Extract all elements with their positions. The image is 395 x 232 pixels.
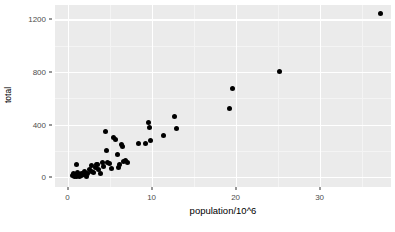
data-point bbox=[98, 171, 103, 176]
data-point bbox=[227, 106, 232, 111]
x-axis-tick-label: 20 bbox=[231, 193, 240, 202]
data-point bbox=[230, 86, 235, 91]
gridline-major-horizontal bbox=[55, 177, 391, 178]
x-axis-tick-mark bbox=[67, 187, 68, 190]
data-point bbox=[103, 129, 108, 134]
gridline-minor-horizontal bbox=[55, 46, 391, 47]
x-axis-tick-labels: 0102030 bbox=[55, 187, 391, 205]
gridline-major-vertical bbox=[236, 5, 237, 187]
y-axis-tick-label: 1200 bbox=[28, 15, 46, 24]
data-point bbox=[148, 138, 153, 143]
gridline-major-horizontal bbox=[55, 19, 391, 20]
gridline-major-vertical bbox=[320, 5, 321, 187]
data-point bbox=[172, 114, 177, 119]
y-axis-title-text: total bbox=[3, 87, 13, 103]
data-point bbox=[74, 162, 79, 167]
data-point bbox=[113, 137, 118, 142]
x-axis-title: population/10^6 bbox=[55, 205, 391, 216]
data-point bbox=[147, 125, 152, 130]
data-point bbox=[120, 144, 125, 149]
data-point bbox=[101, 164, 106, 169]
gridline-major-horizontal bbox=[55, 125, 391, 126]
gridline-minor-vertical bbox=[278, 5, 279, 187]
x-axis-tick-label: 10 bbox=[147, 193, 156, 202]
x-axis-tick-label: 30 bbox=[315, 193, 324, 202]
plot-panel bbox=[55, 5, 391, 187]
data-point bbox=[125, 160, 130, 165]
gridline-major-horizontal bbox=[55, 72, 391, 73]
y-axis-tick-label: 0 bbox=[42, 173, 46, 182]
gridline-major-vertical bbox=[152, 5, 153, 187]
gridline-minor-vertical bbox=[362, 5, 363, 187]
data-point bbox=[174, 126, 179, 131]
y-axis-tick-labels: 04008001200 bbox=[16, 0, 52, 190]
data-point bbox=[277, 69, 282, 74]
gridline-major-vertical bbox=[68, 5, 69, 187]
data-point bbox=[136, 141, 141, 146]
data-point bbox=[115, 152, 120, 157]
data-point bbox=[104, 148, 109, 153]
gridline-minor-vertical bbox=[110, 5, 111, 187]
data-point bbox=[161, 133, 166, 138]
y-axis-tick-mark bbox=[49, 19, 52, 20]
gridline-minor-horizontal bbox=[55, 98, 391, 99]
scatter-plot: total 04008001200 0102030 population/10^… bbox=[0, 0, 395, 232]
x-axis-tick-mark bbox=[151, 187, 152, 190]
data-point bbox=[107, 161, 112, 166]
y-axis-title: total bbox=[0, 0, 16, 190]
y-axis-tick-mark bbox=[49, 72, 52, 73]
gridline-minor-vertical bbox=[194, 5, 195, 187]
y-axis-tick-mark bbox=[49, 177, 52, 178]
x-axis-tick-label: 0 bbox=[65, 193, 69, 202]
y-axis-tick-label: 400 bbox=[33, 120, 46, 129]
data-point bbox=[378, 11, 383, 16]
x-axis-tick-mark bbox=[235, 187, 236, 190]
data-point bbox=[109, 166, 114, 171]
y-axis-tick-label: 800 bbox=[33, 68, 46, 77]
x-axis-tick-mark bbox=[319, 187, 320, 190]
y-axis-tick-mark bbox=[49, 124, 52, 125]
